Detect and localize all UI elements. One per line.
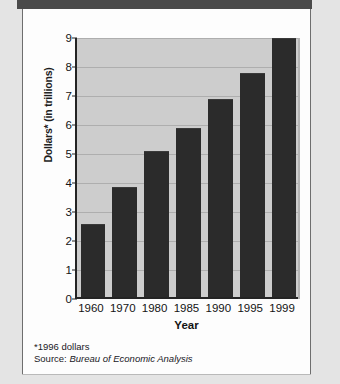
x-tick-label: 1980 bbox=[139, 302, 171, 314]
x-tick-label: 1995 bbox=[234, 302, 266, 314]
scanned-page: Dollars* (in trillions) 0123456789 19601… bbox=[0, 0, 340, 384]
y-tick-mark bbox=[72, 125, 77, 126]
gridline bbox=[77, 125, 298, 126]
footnote-asterisk: *1996 dollars bbox=[34, 341, 193, 353]
y-tick-mark bbox=[72, 212, 77, 213]
y-tick-label: 3 bbox=[66, 206, 72, 218]
bar bbox=[240, 73, 265, 297]
y-tick-label: 2 bbox=[66, 235, 72, 247]
bar bbox=[272, 38, 297, 297]
x-tick-label: 1985 bbox=[171, 302, 203, 314]
y-tick-mark bbox=[72, 67, 77, 68]
plot-area: 0123456789 bbox=[75, 38, 298, 299]
y-axis-title: Dollars* (in trillions) bbox=[42, 50, 54, 180]
y-tick-mark bbox=[72, 241, 77, 242]
y-tick-label: 4 bbox=[66, 177, 72, 189]
y-tick-label: 6 bbox=[66, 119, 72, 131]
y-tick-mark bbox=[72, 38, 77, 39]
y-tick-label: 0 bbox=[66, 293, 72, 305]
figure-card: Dollars* (in trillions) 0123456789 19601… bbox=[22, 9, 311, 375]
y-tick-label: 7 bbox=[66, 90, 72, 102]
x-tick-label: 1999 bbox=[266, 302, 298, 314]
bar bbox=[81, 224, 106, 298]
y-tick-label: 5 bbox=[66, 148, 72, 160]
y-tick-mark bbox=[72, 183, 77, 184]
plot-right-shade bbox=[298, 38, 300, 299]
bar-chart: Dollars* (in trillions) 0123456789 19601… bbox=[23, 9, 312, 375]
gridline bbox=[77, 67, 298, 68]
footnote-source-label: Source: bbox=[34, 353, 67, 364]
y-tick-mark bbox=[72, 96, 77, 97]
footnote-source: Source: Bureau of Economic Analysis bbox=[34, 353, 193, 365]
y-tick-mark bbox=[72, 154, 77, 155]
bar bbox=[176, 128, 201, 297]
bar bbox=[144, 151, 169, 297]
y-tick-label: 9 bbox=[66, 32, 72, 44]
bar bbox=[112, 187, 137, 297]
footnotes: *1996 dollars Source: Bureau of Economic… bbox=[34, 341, 193, 365]
y-tick-mark bbox=[72, 299, 77, 300]
x-tick-label: 1970 bbox=[107, 302, 139, 314]
gridline bbox=[77, 38, 298, 39]
bar bbox=[208, 99, 233, 297]
y-tick-label: 1 bbox=[66, 264, 72, 276]
y-tick-label: 8 bbox=[66, 61, 72, 73]
footnote-source-value: Bureau of Economic Analysis bbox=[69, 353, 192, 364]
page-header-band bbox=[17, 0, 312, 9]
x-axis-title: Year bbox=[75, 319, 298, 331]
x-tick-label: 1960 bbox=[75, 302, 107, 314]
card-bottom-rule bbox=[22, 374, 311, 375]
gridline bbox=[77, 96, 298, 97]
x-tick-label: 1990 bbox=[202, 302, 234, 314]
y-tick-mark bbox=[72, 270, 77, 271]
